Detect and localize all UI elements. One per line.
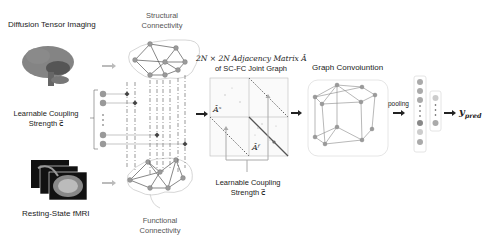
matrix-title: 2N × 2N Adjacency Matrix Â of SC-FC Join… (196, 54, 306, 74)
graph-convolution-graph (308, 80, 388, 156)
arrow-dti-to-sc (102, 63, 116, 69)
arrow-fmri-to-fc (102, 180, 116, 186)
pooling-arrow (393, 110, 405, 116)
coupling-matrix-label: Learnable Coupling Strength c⃗ (206, 178, 290, 198)
functional-connectivity-label: Functional Connectivity (130, 216, 190, 236)
adjacency-matrix (210, 78, 288, 172)
hidden-layer-vector (430, 91, 441, 131)
matrix-block-s: Âˢ (213, 105, 221, 115)
arrow-to-gcn (291, 110, 302, 116)
dti-label: Diffusion Tensor Imaging (8, 20, 96, 30)
pooling-label: pooling (388, 99, 409, 109)
coupling-strength-vector-left (90, 90, 188, 149)
structural-connectivity-label: Structural Connectivity (132, 11, 192, 31)
pooled-feature-vector (414, 76, 426, 152)
structural-connectivity-graph (129, 40, 200, 79)
output-y-pred: ypred (459, 107, 481, 121)
matrix-block-f: Âᶠ (252, 143, 260, 153)
fmri-label: Resting-State fMRI (22, 209, 90, 219)
gcn-title: Graph Convoiuntion (312, 63, 383, 73)
fmri-slices-image (31, 160, 87, 200)
arrow-to-output (444, 110, 456, 116)
arrow-to-matrix (196, 111, 208, 117)
coupling-left-label: Learnable Coupling Strength c⃗ (4, 109, 88, 129)
dti-brain-image (22, 46, 74, 86)
functional-connectivity-graph (127, 158, 192, 208)
